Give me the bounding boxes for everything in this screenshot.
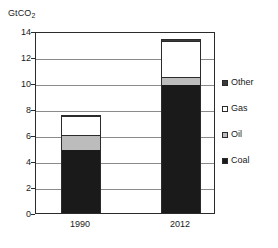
legend-item-gas[interactable]: Gas [222, 104, 276, 113]
plot-area [35, 32, 215, 214]
bar-segment-2012-gas[interactable] [161, 41, 201, 77]
x-axis-tick-label-1990: 1990 [50, 219, 110, 229]
y-axis-unit-subscript: 2 [31, 12, 35, 19]
legend-label-gas: Gas [231, 104, 248, 113]
legend-item-coal[interactable]: Coal [222, 156, 276, 165]
x-axis-tick-label-2012: 2012 [150, 219, 210, 229]
legend-item-other[interactable]: Other [222, 78, 276, 87]
chart-legend: OtherGasOilCoal [222, 78, 276, 182]
legend-swatch-coal [222, 158, 228, 164]
y-axis-unit-title: GtCO2 [8, 8, 35, 19]
chart-figure: GtCO2 02468101214 19902012 OtherGasOilCo… [0, 0, 278, 248]
y-axis-tick-label: 4 [3, 158, 31, 167]
y-axis-tick-label: 8 [3, 106, 31, 115]
legend-swatch-other [222, 80, 228, 86]
bar-segment-1990-gas[interactable] [61, 116, 101, 135]
legend-swatch-gas [222, 106, 228, 112]
bar-segment-2012-oil[interactable] [161, 77, 201, 85]
y-axis-tick-label: 14 [3, 28, 31, 37]
y-axis-tick-label: 10 [3, 80, 31, 89]
bar-segment-1990-coal[interactable] [61, 150, 101, 213]
bar-segment-1990-other[interactable] [61, 115, 101, 116]
y-axis-tick-label: 2 [3, 184, 31, 193]
legend-label-oil: Oil [231, 130, 242, 139]
legend-item-oil[interactable]: Oil [222, 130, 276, 139]
bar-segment-2012-other[interactable] [161, 39, 201, 41]
y-axis-tick-labels: 02468101214 [0, 32, 31, 214]
y-axis-tick-label: 12 [3, 54, 31, 63]
bar-segment-2012-coal[interactable] [161, 85, 201, 213]
legend-swatch-oil [222, 132, 228, 138]
y-axis-tick-label: 0 [3, 210, 31, 219]
legend-label-coal: Coal [231, 156, 250, 165]
bar-segment-1990-oil[interactable] [61, 135, 101, 150]
legend-label-other: Other [231, 78, 254, 87]
y-axis-unit-text: GtCO [8, 8, 31, 18]
y-axis-tick-label: 6 [3, 132, 31, 141]
